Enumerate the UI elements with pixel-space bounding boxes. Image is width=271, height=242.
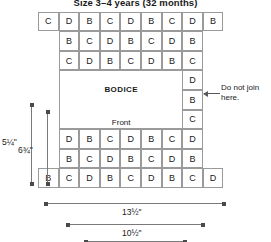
grid-cell: C bbox=[162, 12, 183, 32]
page-title: Size 3–4 years (32 months) bbox=[0, 0, 271, 8]
grid-cell: D bbox=[141, 168, 162, 188]
grid-cell: D bbox=[59, 129, 80, 149]
grid-cell: B bbox=[79, 129, 100, 149]
dim-lower-label: 10½" bbox=[122, 228, 142, 238]
grid-cell: D bbox=[120, 129, 141, 149]
grid-cell: B bbox=[120, 149, 141, 169]
grid-cell: B bbox=[162, 51, 183, 71]
grid-cell: D bbox=[79, 168, 100, 188]
front-label: Front bbox=[59, 118, 183, 127]
grid-cell: D bbox=[162, 149, 183, 169]
grid-cell: C bbox=[120, 168, 141, 188]
grid-cell: D bbox=[79, 51, 100, 71]
grid-cell: D bbox=[162, 31, 183, 51]
grid-cell: C bbox=[120, 51, 141, 71]
grid-cell: C bbox=[182, 110, 203, 130]
grid-cell: B bbox=[141, 129, 162, 149]
grid-cell: D bbox=[182, 129, 203, 149]
grid-cell: D bbox=[120, 12, 141, 32]
dim-upper-label: 13½" bbox=[122, 207, 142, 217]
grid-cell: B bbox=[59, 31, 80, 51]
grid-cell: C bbox=[79, 149, 100, 169]
grid-cell: C bbox=[100, 129, 121, 149]
grid-cell: C bbox=[59, 168, 80, 188]
dim-left-inner-line bbox=[47, 110, 48, 186]
grid-cell: C bbox=[182, 51, 203, 71]
grid-cell: C bbox=[79, 31, 100, 51]
grid-cell: B bbox=[100, 51, 121, 71]
grid-cell: B bbox=[100, 168, 121, 188]
grid-cell: B bbox=[182, 149, 203, 169]
bodice-label: BODICE bbox=[59, 85, 183, 94]
grid-cell: D bbox=[182, 70, 203, 90]
grid-cell: B bbox=[79, 12, 100, 32]
grid-cell: B bbox=[203, 12, 224, 32]
grid-cell: D bbox=[182, 12, 203, 32]
grid-cell: B bbox=[59, 149, 80, 169]
grid-cell: B bbox=[162, 168, 183, 188]
grid-cell: D bbox=[59, 12, 80, 32]
pattern-diagram: Size 3–4 years (32 months) CDBCDBCDBBCDB… bbox=[0, 0, 271, 242]
dim-lower-line bbox=[66, 224, 205, 225]
grid-cell: B bbox=[141, 12, 162, 32]
dim-left-inner-label: 6¾" bbox=[18, 145, 33, 155]
dim-upper-line bbox=[44, 203, 226, 204]
grid-cell: D bbox=[203, 168, 224, 188]
grid-cell: D bbox=[141, 51, 162, 71]
do-not-join-arrow bbox=[204, 93, 220, 94]
grid-cell: D bbox=[100, 31, 121, 51]
do-not-join-line1: Do not join bbox=[221, 83, 259, 93]
grid-cell: D bbox=[100, 149, 121, 169]
grid-cell: C bbox=[100, 12, 121, 32]
grid-cell: C bbox=[141, 31, 162, 51]
grid-cell: B bbox=[182, 90, 203, 110]
grid-cell: C bbox=[162, 129, 183, 149]
dim-left-outer-label: 5¼" bbox=[2, 137, 17, 147]
grid-cell: C bbox=[38, 12, 59, 32]
grid-cell: B bbox=[182, 31, 203, 51]
do-not-join-line2: here. bbox=[221, 93, 259, 103]
grid-cell: B bbox=[120, 31, 141, 51]
grid-cell: C bbox=[59, 51, 80, 71]
do-not-join-note: Do not join here. bbox=[221, 83, 259, 103]
grid-cell: C bbox=[141, 149, 162, 169]
grid-cell: C bbox=[182, 168, 203, 188]
